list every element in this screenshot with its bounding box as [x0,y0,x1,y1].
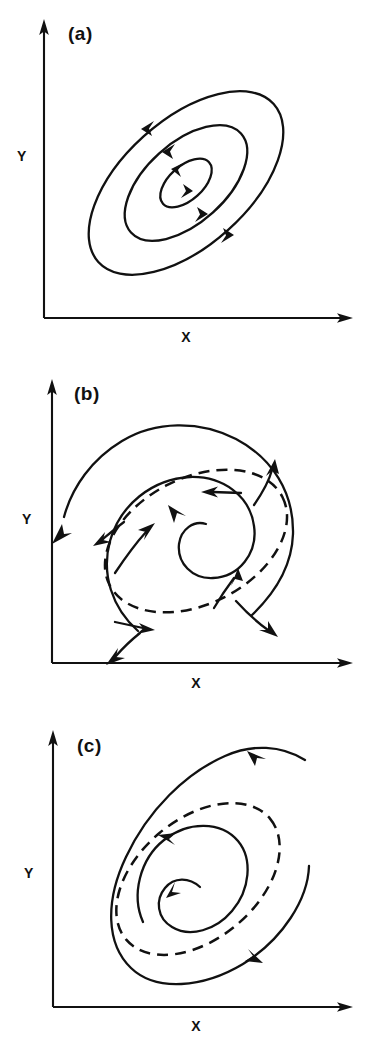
panel-c-x-axis-label: X [191,1018,201,1034]
panel-b-y-axis-label: Y [22,511,32,527]
panel-b-x-axis-label: X [191,675,201,691]
panel-a-label: (a) [68,23,93,44]
panel-c-y-axis-label: Y [24,865,34,881]
panel-a-x-axis-label: X [181,329,191,345]
phase-portrait-figure: (a) Y X (b) Y [0,0,373,1047]
panel-c-label: (c) [77,735,102,756]
flow-arrow-shaft [213,492,241,493]
panel-b-label: (b) [74,383,100,404]
panel-a-y-axis-label: Y [17,148,27,164]
figure-background [0,0,373,1047]
